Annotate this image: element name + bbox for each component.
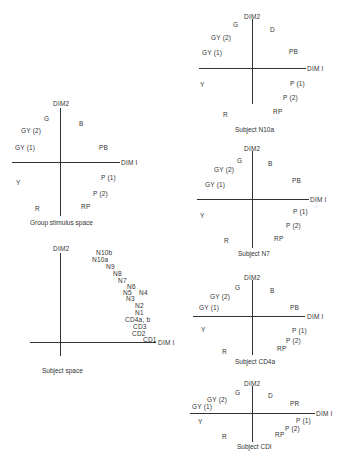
point-label: GY (1) — [192, 403, 212, 410]
dim1-label: DIM I — [316, 410, 333, 417]
point-label: P (2) — [285, 425, 300, 432]
dim2-axis — [252, 386, 253, 442]
subject-cdi-plot: DIM2 DIM I G D GY (2) GY (1) PR Y P (1) … — [0, 0, 340, 457]
caption: Subject CDI — [237, 443, 272, 450]
dim1-axis — [190, 413, 315, 414]
point-label: G — [235, 389, 240, 396]
point-label: Y — [198, 418, 203, 425]
point-label: RP — [275, 431, 284, 438]
point-label: P (1) — [296, 417, 311, 424]
point-label: PR — [290, 400, 299, 407]
dim2-label: DIM2 — [244, 380, 260, 387]
point-label: D — [268, 392, 273, 399]
point-label: R — [222, 433, 227, 440]
point-label: GY (2) — [207, 396, 227, 403]
